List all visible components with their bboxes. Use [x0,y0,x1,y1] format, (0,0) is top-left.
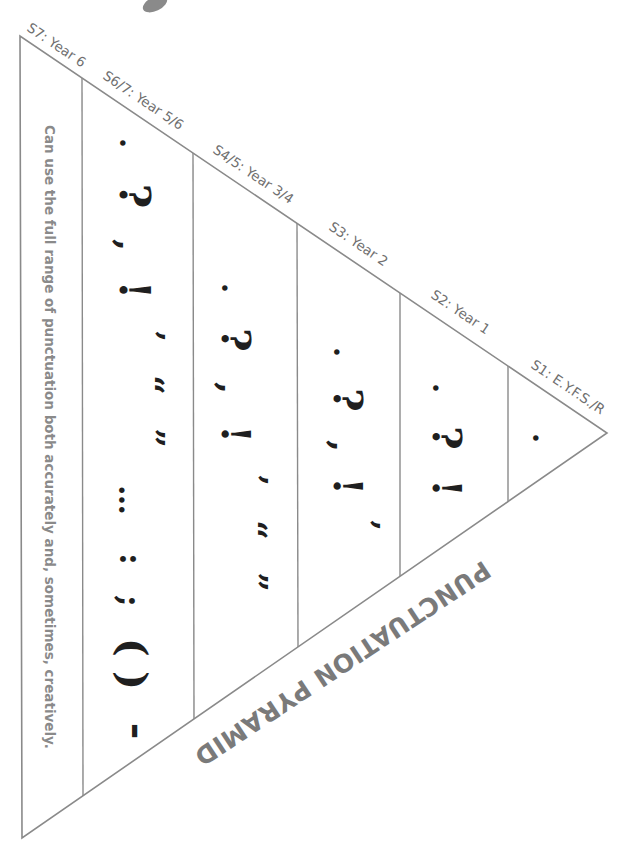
glyph-question-mark: ? [424,426,471,449]
glyph-full-stop: . [215,283,250,293]
glyph-apostrophe: ’ [347,519,387,531]
glyph-brackets: ( ) [110,638,157,690]
stage-label-s3: S3: Year 2 [326,218,391,269]
glyph-comma: , [110,239,150,251]
glyph-comma: , [212,382,252,394]
divider-s6-s4 [193,153,194,719]
glyph-exclamation: ! [325,477,372,495]
stage-s6-7-glyphs: . ? , ! ’ “ ” … : ; ( ) - [110,138,172,740]
glyph-semicolon: ; [111,595,149,607]
glyph-open-quote: “ [235,520,275,540]
glyph-full-stop: . [327,347,362,357]
cropped-decoration [140,0,169,16]
glyph-full-stop: . [426,383,461,393]
glyph-exclamation: ! [213,425,260,443]
glyph-colon: : [112,553,150,565]
stage-label-s2: S2: Year 1 [428,286,493,337]
stage-s2-glyphs: . ? ! [424,383,471,497]
stage-s7-description: Can use the full range of punctuation bo… [42,125,58,749]
glyph-question-mark: ? [213,328,260,351]
punctuation-pyramid-diagram: S7: Year 6 S6/7: Year 5/6 S4/5: Year 3/4… [0,0,629,851]
glyph-close-quote: ” [132,428,172,448]
stage-label-s1: S1: E.Y.F.S./R [528,356,608,417]
glyph-dash: - [115,723,162,740]
glyph-comma: , [324,440,364,452]
glyph-full-stop: . [113,138,148,148]
stage-s3-glyphs: . ? , ! ’ [324,347,387,531]
glyph-question-mark: ? [110,184,159,209]
glyph-question-mark: ? [325,388,372,411]
stage-s4-5-glyphs: . ? , ! ’ “ ” [212,283,275,592]
divider-s7-s6 [82,78,83,796]
glyph-open-quote: “ [132,375,172,395]
glyph-apostrophe: ’ [132,330,172,342]
glyph-apostrophe: ’ [235,474,275,486]
glyph-exclamation: ! [424,479,471,497]
glyph-ellipsis: … [112,485,147,515]
glyph-full-stop: . [526,433,561,443]
glyph-exclamation: ! [110,281,159,299]
stage-s1-glyphs: . [526,433,561,443]
divider-s4-s3 [297,223,298,647]
glyph-close-quote: ” [235,572,275,592]
pyramid-outline [20,36,607,838]
